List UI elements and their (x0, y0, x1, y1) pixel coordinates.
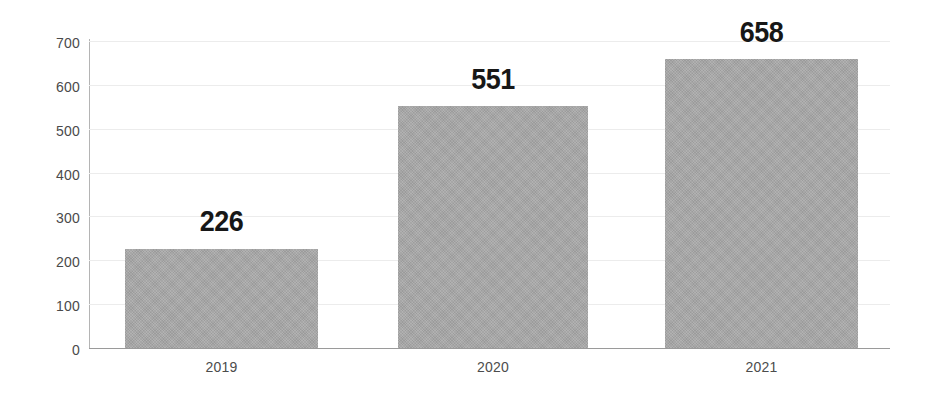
y-tick-label-200: 200 (34, 255, 80, 269)
y-tick-label-400: 400 (34, 168, 80, 182)
y-tick-label-600: 600 (34, 80, 80, 94)
x-axis-line (89, 348, 890, 349)
bar-value-2019: 226 (132, 207, 311, 236)
x-tick-label-2021: 2021 (665, 360, 858, 374)
y-tick-label-0: 0 (34, 343, 80, 357)
bar-2020[interactable] (398, 106, 588, 348)
y-tick-label-300: 300 (34, 211, 80, 225)
bar-value-2020: 551 (405, 65, 582, 94)
bar-2021[interactable] (665, 59, 858, 348)
bar-chart: 226 551 658 2019 2020 2021 700 600 500 4… (0, 0, 935, 398)
y-tick-label-500: 500 (34, 124, 80, 138)
x-tick-label-2020: 2020 (398, 360, 588, 374)
y-tick-label-700: 700 (34, 36, 80, 50)
y-tick-label-100: 100 (34, 299, 80, 313)
x-tick-label-2019: 2019 (125, 360, 318, 374)
bar-value-2021: 658 (672, 18, 851, 47)
bar-2019[interactable] (125, 249, 318, 348)
